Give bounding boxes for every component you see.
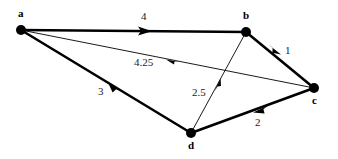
- arrowhead-d-b: [215, 79, 221, 92]
- edge-weight-a-b: 4: [141, 11, 147, 22]
- graph-canvas: [0, 0, 338, 159]
- edge-line-d-a: [21, 30, 191, 133]
- graph-figure: a b c d 4 1 2 3 4.25 2.5: [0, 0, 338, 159]
- node-d[interactable]: [186, 128, 196, 138]
- edge-weight-c-d: 2: [255, 117, 261, 128]
- node-label-d: d: [188, 140, 194, 151]
- node-b[interactable]: [241, 27, 251, 37]
- node-label-a: a: [18, 8, 24, 19]
- edge-weight-d-a: 3: [98, 86, 104, 97]
- edge-line-c-a: [21, 30, 314, 88]
- node-label-b: b: [243, 10, 249, 21]
- node-layer: [16, 25, 319, 138]
- edge-line-c-d: [191, 88, 314, 133]
- edge-line-b-c: [246, 32, 314, 88]
- edge-line-a-b: [21, 30, 246, 32]
- node-a[interactable]: [16, 25, 26, 35]
- node-label-c: c: [312, 95, 317, 106]
- node-c[interactable]: [309, 83, 319, 93]
- edge-layer: [21, 30, 314, 133]
- edge-weight-d-b: 2.5: [192, 87, 206, 98]
- edge-line-d-b: [191, 32, 246, 133]
- edge-weight-b-c: 1: [285, 45, 291, 56]
- edge-weight-c-a: 4.25: [134, 57, 153, 68]
